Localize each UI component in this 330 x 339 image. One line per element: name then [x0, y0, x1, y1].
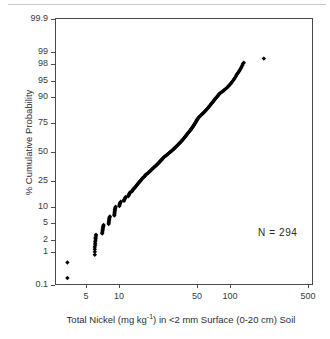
x-tick-mark	[230, 284, 231, 288]
y-tick-mark	[51, 97, 55, 98]
y-tick-mark	[51, 123, 55, 124]
x-tick-mark	[308, 284, 309, 288]
y-tick-mark	[51, 64, 55, 65]
sample-size-annotation: N = 294	[258, 227, 298, 238]
y-tick-mark	[51, 81, 55, 82]
y-tick-mark	[51, 285, 55, 286]
y-tick-mark	[51, 207, 55, 208]
x-tick-mark	[119, 284, 120, 288]
x-tick-label-1: 10	[99, 292, 139, 301]
y-tick-label-0: 99.9	[8, 14, 48, 23]
x-tick-mark	[86, 284, 87, 288]
x-axis-title-head: Total Nickel (mg kg	[67, 314, 147, 325]
plot-area-frame	[55, 18, 313, 285]
x-axis-title-tail: ) in <2 mm Surface (0-20 cm) Soil	[153, 314, 295, 325]
y-tick-mark	[51, 19, 55, 20]
x-tick-label-4: 500	[288, 292, 328, 301]
x-tick-mark	[197, 284, 198, 288]
x-tick-label-3: 100	[210, 292, 250, 301]
y-tick-mark	[51, 52, 55, 53]
x-axis-title: Total Nickel (mg kg-1) in <2 mm Surface …	[36, 314, 326, 325]
scan-line-artifact	[8, 4, 326, 5]
probability-plot-figure: 99.999989590755025105210.151050100500 % …	[0, 0, 330, 339]
y-tick-mark	[51, 181, 55, 182]
y-axis-title: % Cumulative Probability	[23, 43, 34, 243]
y-tick-mark	[51, 240, 55, 241]
y-tick-mark	[51, 252, 55, 253]
y-tick-mark	[51, 152, 55, 153]
y-tick-label-11: 1	[8, 247, 48, 256]
y-tick-mark	[51, 223, 55, 224]
y-tick-label-12: 0.1	[8, 280, 48, 289]
